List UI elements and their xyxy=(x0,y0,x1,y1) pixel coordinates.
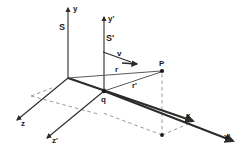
velocity-label: v xyxy=(117,49,122,58)
axis-x-prime-label: x' xyxy=(224,132,230,141)
vector-r-prime-label: r' xyxy=(132,81,137,90)
point-P-marker xyxy=(160,69,164,73)
diagram-labels: y S y' S' v P q r r' x x' z z' xyxy=(21,4,230,145)
axis-y-prime-label: y' xyxy=(108,14,114,23)
axis-x-label: x xyxy=(186,111,191,120)
point-P-label: P xyxy=(159,59,165,68)
dashed-ground-to-x-axis xyxy=(162,124,188,135)
physics-diagram-svg: y S y' S' v P q r r' x x' z z' xyxy=(0,0,241,149)
frame-S-label: S xyxy=(59,22,65,32)
construction-dashed-lines xyxy=(31,74,188,135)
dashed-floor-left-S xyxy=(31,96,98,114)
frame-S-prime-label: S' xyxy=(106,33,114,43)
axis-x xyxy=(68,78,193,121)
axis-y-label: y xyxy=(73,4,78,13)
vector-diagram-canvas: y S y' S' v P q r r' x x' z z' xyxy=(0,0,241,149)
frame-S-axes xyxy=(17,8,193,121)
axis-z-prime xyxy=(47,91,104,138)
axis-z-label: z xyxy=(21,119,25,128)
dashed-floor-left-S-riser xyxy=(31,88,52,96)
axis-x-prime xyxy=(104,91,233,141)
vector-r-label: r xyxy=(115,65,118,74)
velocity-vector-arrow xyxy=(122,63,137,64)
axis-z-prime-label: z' xyxy=(52,136,58,145)
point-projection-marker xyxy=(160,133,164,137)
charge-q-label: q xyxy=(101,95,106,104)
dashed-ground-to-q-axis xyxy=(103,113,162,135)
point-q-marker xyxy=(102,89,107,94)
axis-z xyxy=(17,78,68,120)
